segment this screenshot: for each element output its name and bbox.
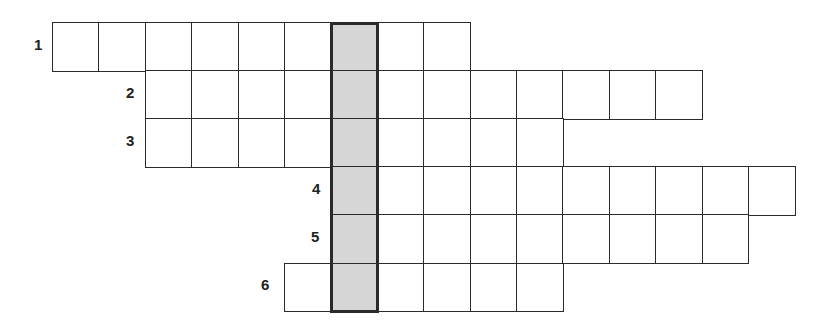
answer-cell[interactable] xyxy=(377,263,425,313)
answer-cell[interactable] xyxy=(562,70,610,120)
answer-cell[interactable] xyxy=(284,118,332,168)
answer-cell[interactable] xyxy=(609,70,657,120)
key-cell[interactable] xyxy=(330,166,378,216)
answer-cell[interactable] xyxy=(470,70,518,120)
answer-cell[interactable] xyxy=(145,70,193,120)
answer-cell[interactable] xyxy=(423,166,471,216)
answer-cell[interactable] xyxy=(470,214,518,264)
answer-cell[interactable] xyxy=(238,118,286,168)
answer-cell[interactable] xyxy=(470,166,518,216)
clue-number-6: 6 xyxy=(261,277,269,292)
answer-cell[interactable] xyxy=(238,22,286,72)
clue-number-5: 5 xyxy=(311,229,319,244)
answer-cell[interactable] xyxy=(423,70,471,120)
clue-number-4: 4 xyxy=(312,181,320,196)
answer-cell[interactable] xyxy=(516,118,564,168)
answer-cell[interactable] xyxy=(191,70,239,120)
answer-cell[interactable] xyxy=(609,166,657,216)
answer-cell[interactable] xyxy=(423,263,471,313)
answer-cell[interactable] xyxy=(516,214,564,264)
answer-cell[interactable] xyxy=(609,214,657,264)
clue-number-2: 2 xyxy=(126,85,134,100)
answer-cell[interactable] xyxy=(748,166,796,216)
key-cell[interactable] xyxy=(330,22,378,72)
answer-cell[interactable] xyxy=(562,214,610,264)
answer-cell[interactable] xyxy=(377,22,425,72)
answer-cell[interactable] xyxy=(98,22,146,72)
answer-cell[interactable] xyxy=(655,166,703,216)
answer-cell[interactable] xyxy=(145,22,193,72)
answer-cell[interactable] xyxy=(702,166,750,216)
answer-cell[interactable] xyxy=(284,263,332,313)
answer-cell[interactable] xyxy=(655,214,703,264)
answer-cell[interactable] xyxy=(284,70,332,120)
clue-number-3: 3 xyxy=(126,133,134,148)
key-cell[interactable] xyxy=(330,118,378,168)
answer-cell[interactable] xyxy=(191,118,239,168)
answer-cell[interactable] xyxy=(377,166,425,216)
answer-cell[interactable] xyxy=(52,22,100,72)
answer-cell[interactable] xyxy=(470,118,518,168)
answer-cell[interactable] xyxy=(284,22,332,72)
answer-cell[interactable] xyxy=(191,22,239,72)
answer-cell[interactable] xyxy=(702,214,750,264)
answer-cell[interactable] xyxy=(238,70,286,120)
clue-number-1: 1 xyxy=(34,37,42,52)
answer-cell[interactable] xyxy=(377,118,425,168)
key-cell[interactable] xyxy=(330,214,378,264)
answer-cell[interactable] xyxy=(423,22,471,72)
answer-cell[interactable] xyxy=(423,214,471,264)
answer-cell[interactable] xyxy=(655,70,703,120)
crossword-grid: 123456 xyxy=(0,0,822,322)
answer-cell[interactable] xyxy=(516,263,564,313)
key-cell[interactable] xyxy=(330,70,378,120)
answer-cell[interactable] xyxy=(470,263,518,313)
answer-cell[interactable] xyxy=(377,70,425,120)
answer-cell[interactable] xyxy=(423,118,471,168)
answer-cell[interactable] xyxy=(377,214,425,264)
answer-cell[interactable] xyxy=(562,166,610,216)
answer-cell[interactable] xyxy=(145,118,193,168)
answer-cell[interactable] xyxy=(516,166,564,216)
key-cell[interactable] xyxy=(330,263,378,313)
answer-cell[interactable] xyxy=(516,70,564,120)
